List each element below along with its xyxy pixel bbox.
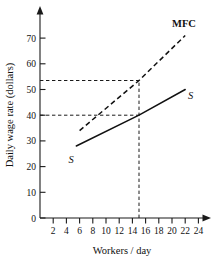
x-tick-label-22: 22 (180, 226, 190, 236)
x-axis-title: Workers / day (93, 245, 152, 256)
y-tick-label-30: 30 (27, 136, 37, 146)
x-tick-label-6: 6 (77, 226, 82, 236)
y-tick-label-0: 0 (31, 214, 36, 224)
x-tick-label-4: 4 (64, 226, 69, 236)
supply-curve-label-lower: S (68, 154, 74, 165)
x-tick-group (53, 218, 198, 224)
x-tick-label-18: 18 (154, 226, 164, 236)
x-tick-label-2: 2 (51, 226, 56, 236)
y-tick-label-70: 70 (27, 34, 37, 44)
y-axis-title: Daily wage rate (dollars) (4, 62, 16, 167)
y-tick-label-50: 50 (27, 85, 37, 95)
x-tick-label-12: 12 (114, 226, 124, 236)
x-tick-label-16: 16 (141, 226, 151, 236)
supply-curve-s (76, 90, 185, 147)
curve-group (76, 36, 185, 147)
x-tick-label-14: 14 (128, 226, 138, 236)
labor-market-monopsony-chart: 0 10 20 30 40 50 60 70 2 4 (0, 0, 215, 263)
y-tick-label-10: 10 (27, 188, 37, 198)
mfc-curve-label: MFC (172, 18, 196, 29)
y-axis-arrow-icon (37, 6, 44, 15)
y-tick-group (40, 38, 46, 218)
supply-curve-label-upper: S (188, 90, 194, 101)
x-tick-label-20: 20 (167, 226, 177, 236)
x-tick-label-10: 10 (101, 226, 111, 236)
curve-label-group: MFC S S (68, 18, 196, 165)
y-tick-label-group: 0 10 20 30 40 50 60 70 (27, 34, 37, 224)
x-axis-arrow-icon (203, 215, 212, 222)
y-tick-label-40: 40 (27, 111, 37, 121)
mfc-curve (80, 36, 186, 131)
x-tick-label-group: 2 4 6 8 10 12 14 16 18 20 22 24 (51, 226, 204, 236)
y-tick-label-20: 20 (27, 162, 37, 172)
chart-figure: 0 10 20 30 40 50 60 70 2 4 (0, 0, 215, 263)
x-tick-label-24: 24 (194, 226, 204, 236)
guide-line-group (40, 81, 139, 219)
axes-group (37, 6, 211, 221)
x-tick-label-8: 8 (90, 226, 95, 236)
y-tick-label-60: 60 (27, 59, 37, 69)
